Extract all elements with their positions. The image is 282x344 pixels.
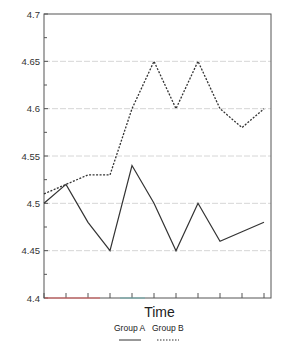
gridlines [44, 61, 271, 250]
y-tick-label: 4.7 [27, 9, 40, 20]
series-line-group-b [44, 61, 264, 194]
legend-label: Group B [152, 323, 184, 333]
y-tick-label: 4.4 [27, 293, 40, 304]
legend-label: Group A [114, 323, 146, 333]
line-chart: 4.44.454.54.554.64.654.7 Time Group AGro… [0, 0, 282, 344]
series-line-group-a [44, 166, 264, 251]
x-axis-label: Time [144, 304, 175, 320]
y-tick-label: 4.55 [22, 151, 41, 162]
y-tick-label: 4.65 [22, 56, 41, 67]
y-tick-label: 4.5 [27, 198, 40, 209]
y-tick-label: 4.45 [22, 245, 41, 256]
y-tick-label: 4.6 [27, 103, 40, 114]
legend: Group AGroup B [114, 323, 184, 340]
x-axis-ticks [44, 293, 264, 298]
